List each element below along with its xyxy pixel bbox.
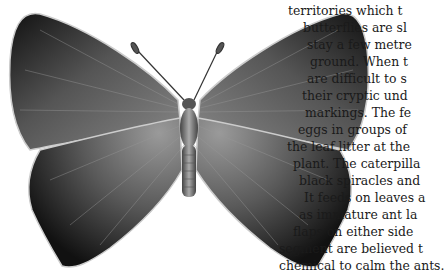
text-line: territories which t <box>288 3 402 18</box>
text-line: the leaf litter at the <box>287 139 410 154</box>
text-line: plant. The caterpilla <box>293 156 420 171</box>
text-line: butterflies are sl <box>303 20 407 35</box>
text-line: stay a few metre <box>307 37 412 52</box>
text-line: as immature ant la <box>299 207 417 222</box>
text-line: flaps on either side <box>293 224 413 239</box>
text-line: eggs in groups of <box>298 122 407 137</box>
text-line: It feeds on leaves a <box>304 190 425 205</box>
text-line: are difficult to s <box>307 71 407 86</box>
butterfly-thorax <box>180 108 198 148</box>
document-page: territories which t butterflies are sl s… <box>0 0 444 280</box>
text-line: chemical to calm the ants. <box>279 258 444 273</box>
text-line: segment are believed t <box>279 241 423 256</box>
text-line: black spiracles and <box>299 173 420 188</box>
text-line: markings. The fe <box>305 105 411 120</box>
text-line: their cryptic und <box>302 88 408 103</box>
text-line: ground. When t <box>310 54 408 69</box>
